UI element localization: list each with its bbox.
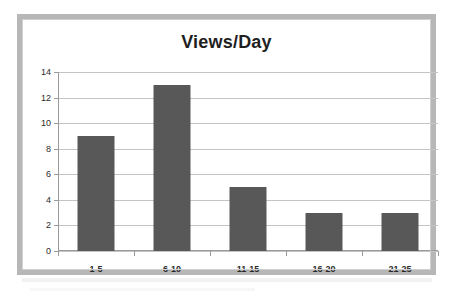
y-tick-label: 8 <box>46 144 51 154</box>
chart-frame: Views/Day 02468101214 1-56-1011-1516-202… <box>17 14 436 275</box>
bar-group[interactable]: 6-10 <box>134 72 210 251</box>
x-tick-mark <box>210 251 211 256</box>
bars: 1-56-1011-1516-2021-25 <box>58 72 438 251</box>
y-tick-label: 0 <box>46 246 51 256</box>
y-tick-label: 12 <box>41 93 51 103</box>
bar[interactable] <box>306 213 343 251</box>
bar-group[interactable]: 11-15 <box>210 72 286 251</box>
chart-title: Views/Day <box>23 32 430 53</box>
y-tick-label: 2 <box>46 220 51 230</box>
x-tick-label: 1-5 <box>89 264 102 274</box>
x-tick-label: 16-20 <box>312 264 335 274</box>
bar[interactable] <box>154 85 191 251</box>
x-tick-label: 11-15 <box>237 264 260 274</box>
y-tick-label: 10 <box>41 118 51 128</box>
scan-artifact-lower <box>30 288 255 291</box>
x-tick-label: 6-10 <box>163 264 181 274</box>
chart-page: Views/Day 02468101214 1-56-1011-1516-202… <box>0 0 454 296</box>
gridline <box>58 251 438 252</box>
bar[interactable] <box>78 136 115 251</box>
y-tick-label: 6 <box>46 169 51 179</box>
bar[interactable] <box>230 187 267 251</box>
y-tick-label: 14 <box>41 67 51 77</box>
x-tick-mark <box>134 251 135 256</box>
plot-area: 02468101214 1-56-1011-1516-2021-25 <box>58 72 438 251</box>
x-tick-mark <box>438 251 439 256</box>
y-tick-label: 4 <box>46 195 51 205</box>
bar-group[interactable]: 16-20 <box>286 72 362 251</box>
x-tick-label: 21-25 <box>388 264 411 274</box>
scan-artifact-upper <box>22 278 432 282</box>
bar-group[interactable]: 21-25 <box>362 72 438 251</box>
x-tick-mark <box>58 251 59 256</box>
x-tick-mark <box>286 251 287 256</box>
x-tick-mark <box>362 251 363 256</box>
bar-group[interactable]: 1-5 <box>58 72 134 251</box>
bar[interactable] <box>382 213 419 251</box>
